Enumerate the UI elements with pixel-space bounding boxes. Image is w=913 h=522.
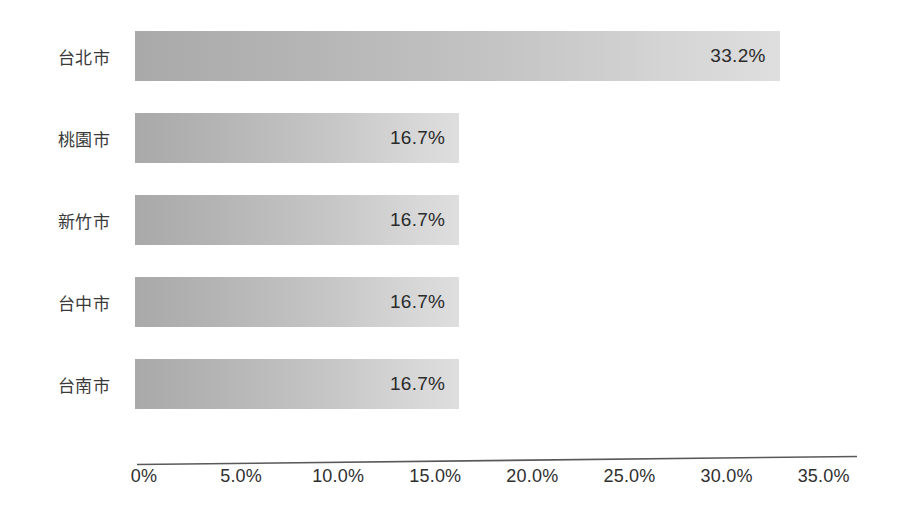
bar-value-label: 16.7%: [390, 359, 445, 409]
bar: 16.7%: [135, 195, 459, 245]
bar-row: 桃園市16.7%: [0, 113, 913, 163]
bar-row: 台中市16.7%: [0, 277, 913, 327]
x-tick-label: 5.0%: [220, 466, 262, 487]
x-tick-label: 20.0%: [506, 466, 558, 487]
x-tick-label: 35.0%: [798, 466, 850, 487]
bar: 16.7%: [135, 277, 459, 327]
bar-value-label: 16.7%: [390, 277, 445, 327]
plot-area: 台北市33.2%桃園市16.7%新竹市16.7%台中市16.7%台南市16.7%: [0, 0, 913, 440]
x-tick-label: 0%: [131, 466, 157, 487]
bar-row: 新竹市16.7%: [0, 195, 913, 245]
x-tick-label: 25.0%: [603, 466, 655, 487]
category-label: 新竹市: [0, 195, 110, 245]
bar-value-label: 16.7%: [390, 195, 445, 245]
bar-chart: 台北市33.2%桃園市16.7%新竹市16.7%台中市16.7%台南市16.7%…: [0, 0, 913, 522]
bar: 16.7%: [135, 359, 459, 409]
bar-track: 16.7%: [135, 195, 913, 245]
bar-track: 16.7%: [135, 277, 913, 327]
x-tick-label: 30.0%: [701, 466, 753, 487]
bar-track: 16.7%: [135, 113, 913, 163]
x-tick-label: 15.0%: [409, 466, 461, 487]
bar-row: 台南市16.7%: [0, 359, 913, 409]
category-label: 桃園市: [0, 113, 110, 163]
x-tick-label: 10.0%: [312, 466, 364, 487]
bar: 16.7%: [135, 113, 459, 163]
category-label: 台中市: [0, 277, 110, 327]
category-label: 台北市: [0, 31, 110, 81]
bar-value-label: 33.2%: [710, 31, 765, 81]
bar: 33.2%: [135, 31, 780, 81]
bar-row: 台北市33.2%: [0, 31, 913, 81]
bar-track: 33.2%: [135, 31, 913, 81]
category-label: 台南市: [0, 359, 110, 409]
bar-value-label: 16.7%: [390, 113, 445, 163]
x-axis-tick-labels: 0%5.0%10.0%15.0%20.0%25.0%30.0%35.0%: [0, 466, 913, 506]
x-axis: 0%5.0%10.0%15.0%20.0%25.0%30.0%35.0%: [0, 438, 913, 522]
bar-track: 16.7%: [135, 359, 913, 409]
